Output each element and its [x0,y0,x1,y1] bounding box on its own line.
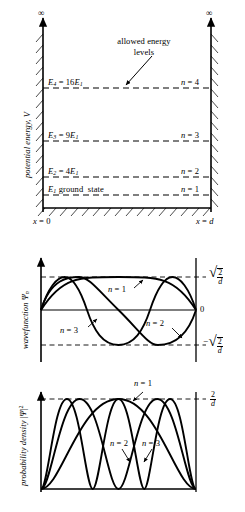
wavefunction-curve-label-n1: n = 1 [108,284,126,294]
wavefunction-n1-arrow [134,280,143,288]
wavefunction-n2-arrow [172,328,182,338]
probability-curve-label-n1: n = 1 [134,378,152,388]
potential-energy-axis-label: potential energy, V [22,112,32,178]
amp-pos-den: d [217,278,223,286]
panel-wavefunction [41,258,206,362]
minus-sign: − [203,337,208,346]
probability-n3-arrow [144,449,152,462]
x-axis-label-right: x = d [196,216,214,226]
left-wall-hatching [36,34,43,207]
allowed-levels-arrow [126,56,152,85]
quantum-number-label-n2: n = 2 [181,166,199,176]
probability-density-axis-label: probability density |Ψ|2 [18,405,28,486]
allowed-levels-annotation-line1: allowed energy [107,36,181,46]
energy-label-n4: E4 = 16E1 [48,77,83,87]
amp-neg-den: d [217,347,223,355]
energy-label-n1: E1 ground state [48,184,104,194]
infinity-symbol-left: ∞ [38,8,44,18]
wavefunction-zero-label: 0 [200,304,204,314]
probability-curve-label-n2: n = 2 [110,438,128,448]
quantum-number-label-n1: n = 1 [181,184,199,194]
wavefunction-amplitude-label-positive: √ 2 d [209,268,223,286]
x-axis-label-left: x = 0 [33,216,51,226]
probability-max-label: 2 d [210,391,216,408]
wavefunction-curve-label-n2: n = 2 [146,318,164,328]
prob-max-den: d [210,400,216,408]
figure-svg [0,0,245,512]
probability-n2-arrow [122,449,130,462]
wavefunction-curve-label-n3: n = 3 [60,325,78,335]
allowed-levels-annotation-line2: levels [107,47,181,57]
right-wall-hatching [211,34,218,207]
wavefunction-amplitude-label-negative: − √ 2 d [203,337,223,355]
probability-curve-label-n3: n = 3 [142,438,160,448]
quantum-number-label-n4: n = 4 [181,77,199,87]
energy-label-n3: E3 = 9E1 [48,130,79,140]
energy-label-n2: E2 = 4E1 [48,166,79,176]
infinity-symbol-right: ∞ [206,8,212,18]
figure-container: ∞ ∞ potential energy, V allowed energy l… [0,0,245,512]
quantum-number-label-n3: n = 3 [181,130,199,140]
probability-n1-arrow [133,392,143,401]
wavefunction-axis-label: wavefunction Ψn [20,291,30,349]
well-bottom-hatching [38,208,210,216]
